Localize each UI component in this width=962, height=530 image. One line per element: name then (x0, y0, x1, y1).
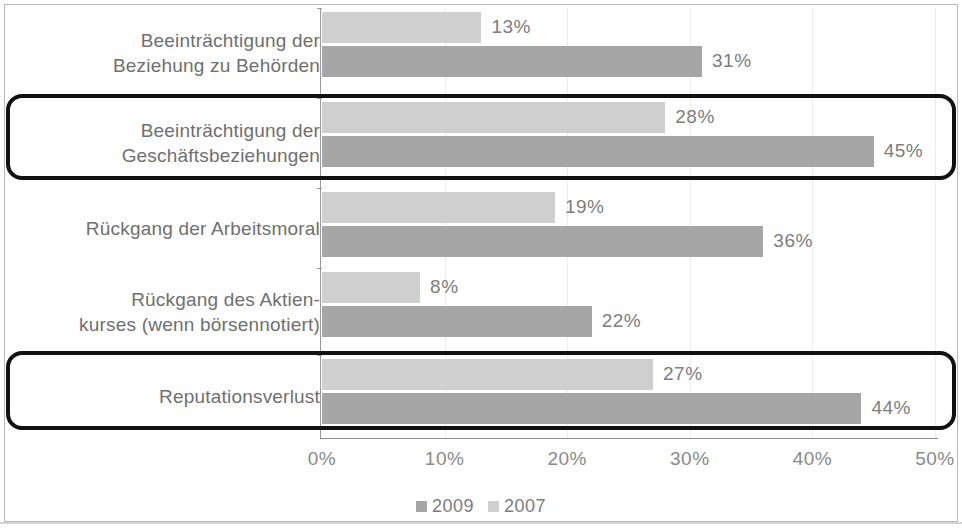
bar-row: 28%45% (322, 98, 935, 188)
x-axis-tick-label: 40% (793, 448, 833, 470)
x-axis-tick-label: 30% (670, 448, 710, 470)
bar-row: 13%31% (322, 8, 935, 98)
plot-area: 13%31%28%45%19%36%8%22%27%44% (322, 8, 935, 438)
gridline (935, 8, 936, 438)
bar-value-label-2007: 8% (430, 276, 458, 298)
bar-2009 (322, 136, 874, 167)
category-label: Rückgang des Aktien- kurses (wenn börsen… (79, 287, 320, 337)
legend-item: 2009 (416, 496, 474, 517)
bar-row: 27%44% (322, 355, 935, 438)
bar-value-label-2009: 44% (871, 397, 911, 419)
x-axis-tick-label: 50% (915, 448, 955, 470)
chart-legend: 20092007 (0, 496, 962, 517)
bar-2007 (322, 12, 481, 43)
legend-label: 2009 (432, 496, 474, 517)
bar-value-label-2007: 13% (491, 16, 531, 38)
category-label: Reputationsverlust (159, 384, 320, 409)
bar-2009 (322, 46, 702, 77)
category-label: Rückgang der Arbeitsmoral (86, 216, 320, 241)
bar-2009 (322, 306, 592, 337)
bar-row: 8%22% (322, 268, 935, 355)
legend-swatch-icon (416, 501, 427, 512)
category-label: Beeinträchtigung der Beziehung zu Behörd… (113, 28, 320, 78)
bar-2007 (322, 102, 665, 133)
bar-2009 (322, 226, 763, 257)
chart-frame-bottom-edge (0, 522, 962, 524)
bar-value-label-2009: 22% (602, 310, 642, 332)
bar-2007 (322, 272, 420, 303)
x-axis-tick-label: 0% (308, 448, 336, 470)
legend-item: 2007 (488, 496, 546, 517)
bar-chart: Beeinträchtigung der Beziehung zu Behörd… (0, 0, 962, 530)
bar-value-label-2007: 27% (663, 363, 703, 385)
category-label: Beeinträchtigung der Geschäftsbeziehunge… (122, 118, 320, 168)
bar-2009 (322, 393, 861, 424)
bar-value-label-2009: 45% (884, 140, 924, 162)
bar-value-label-2009: 36% (773, 230, 813, 252)
bar-value-label-2007: 19% (565, 196, 605, 218)
bar-value-label-2009: 31% (712, 50, 752, 72)
bar-value-label-2007: 28% (675, 106, 715, 128)
x-axis-tick-label: 10% (425, 448, 465, 470)
x-axis-baseline (320, 438, 938, 439)
x-axis-tick-label: 20% (547, 448, 587, 470)
legend-swatch-icon (488, 501, 499, 512)
bar-2007 (322, 192, 555, 223)
legend-label: 2007 (504, 496, 546, 517)
bar-row: 19%36% (322, 188, 935, 268)
y-axis-line (320, 8, 321, 439)
bar-2007 (322, 359, 653, 390)
